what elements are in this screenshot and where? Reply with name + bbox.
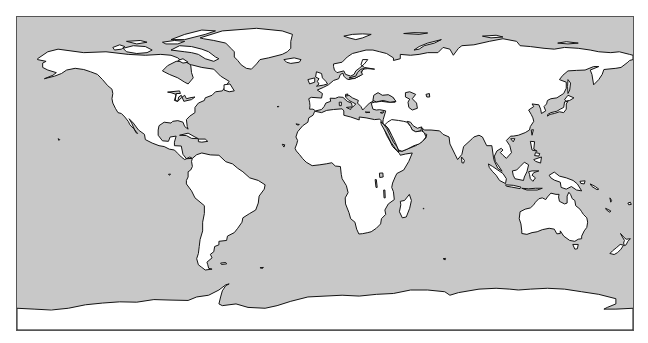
- lesser-sunda-islands: [522, 188, 543, 190]
- new-britain: [580, 181, 585, 184]
- crete: [365, 112, 370, 113]
- hawaii: [58, 139, 60, 141]
- lake-tanganyika: [375, 180, 377, 188]
- world-map-svg: [17, 17, 633, 330]
- falkland-islands: [221, 263, 227, 265]
- sardinia: [339, 102, 341, 105]
- mauritius: [423, 208, 424, 209]
- iceland: [284, 58, 301, 64]
- fiji: [628, 202, 631, 205]
- world-map: [16, 16, 634, 331]
- azores: [277, 106, 279, 107]
- hispaniola: [198, 139, 207, 142]
- aral-sea: [426, 94, 430, 97]
- visayas: [535, 153, 540, 156]
- south-georgia: [260, 267, 263, 268]
- galapagos: [168, 174, 170, 175]
- lake-malawi: [384, 190, 386, 198]
- lake-victoria: [379, 173, 383, 178]
